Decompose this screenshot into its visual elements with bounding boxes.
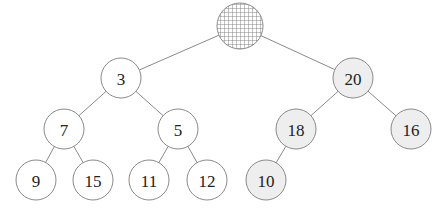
tree-root-node (217, 3, 263, 49)
node-label: 16 (403, 121, 420, 140)
tree-edge (79, 91, 106, 115)
node-label: 7 (60, 121, 69, 140)
node-label: 3 (117, 70, 126, 89)
tree-nodes: 320751816915111210 (16, 3, 431, 200)
tree-node: 10 (246, 160, 286, 200)
tree-node: 3 (101, 58, 141, 98)
node-label: 11 (141, 172, 157, 191)
tree-edge (261, 36, 335, 70)
tree-edges (46, 35, 396, 163)
tree-edge (46, 147, 55, 163)
tree-edge (136, 91, 163, 115)
node-label: 5 (174, 121, 183, 140)
node-label: 12 (199, 172, 216, 191)
node-label: 9 (32, 172, 41, 191)
tree-node: 11 (129, 160, 169, 200)
tree-node: 5 (158, 109, 198, 149)
tree-node: 16 (391, 109, 431, 149)
hatched-circle (217, 3, 263, 49)
tree-edge (159, 146, 168, 162)
tree-edge (311, 91, 338, 115)
node-label: 15 (85, 172, 102, 191)
tree-edge (368, 91, 396, 116)
node-label: 20 (345, 70, 362, 89)
tree-edge (139, 35, 219, 70)
node-label: 10 (258, 172, 275, 191)
tree-edge (74, 146, 83, 162)
node-label: 18 (288, 121, 305, 140)
tree-node: 12 (187, 160, 227, 200)
tree-node: 9 (16, 160, 56, 200)
tree-node: 7 (44, 109, 84, 149)
tree-edge (276, 146, 286, 163)
tree-node: 15 (73, 160, 113, 200)
tree-node: 18 (276, 109, 316, 149)
tree-node: 20 (333, 58, 373, 98)
tree-diagram: 320751816915111210 (0, 0, 445, 211)
tree-edge (188, 146, 197, 162)
